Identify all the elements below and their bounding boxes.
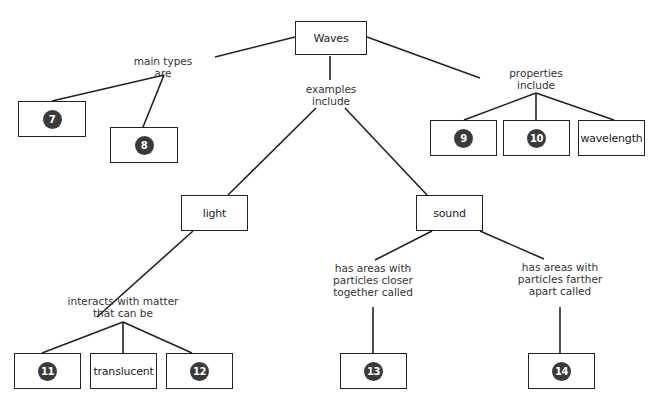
node-9[interactable]: 9 [430, 120, 497, 156]
link-main-types: main types are [134, 55, 193, 79]
link-examples: examples include [306, 83, 357, 107]
node-label: translucent [93, 365, 153, 378]
blank-number-badge: 9 [454, 129, 473, 148]
node-wavelength: wavelength [578, 120, 645, 156]
blank-number-badge: 7 [43, 110, 62, 129]
blank-number-badge: 11 [38, 362, 57, 381]
link-particles-closer: has areas with particles closer together… [333, 262, 413, 298]
link-particles-farther: has areas with particles farther apart c… [518, 261, 602, 297]
connector-lines [0, 0, 661, 408]
link-properties: properties include [509, 67, 563, 91]
node-waves: Waves [295, 21, 367, 55]
node-translucent: translucent [90, 353, 157, 389]
node-label: light [203, 207, 226, 220]
blank-number-badge: 12 [190, 362, 209, 381]
node-14[interactable]: 14 [528, 353, 595, 389]
blank-number-badge: 10 [527, 129, 546, 148]
blank-number-badge: 13 [364, 362, 383, 381]
node-light: light [181, 195, 248, 231]
node-7[interactable]: 7 [18, 101, 86, 137]
node-10[interactable]: 10 [503, 120, 570, 156]
node-8[interactable]: 8 [110, 127, 178, 163]
node-13[interactable]: 13 [340, 353, 407, 389]
node-label: Waves [314, 32, 349, 45]
node-label: sound [433, 207, 465, 220]
link-interacts-matter: interacts with matter that can be [68, 295, 179, 319]
node-label: wavelength [580, 132, 642, 145]
node-12[interactable]: 12 [166, 353, 233, 389]
blank-number-badge: 14 [552, 362, 571, 381]
node-11[interactable]: 11 [14, 353, 81, 389]
node-sound: sound [416, 195, 483, 231]
concept-map: Waves main types are examples include pr… [0, 0, 661, 408]
blank-number-badge: 8 [135, 136, 154, 155]
